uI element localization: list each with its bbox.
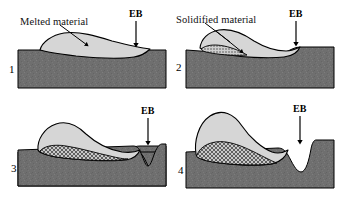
panel-3-number: 3	[11, 163, 17, 174]
panel-1-eb-label: EB	[129, 8, 142, 19]
panel-3-eb-label: EB	[141, 105, 154, 116]
panel-4-number: 4	[178, 165, 184, 176]
panel-3	[18, 118, 166, 186]
panel-2-eb-label: EB	[289, 8, 302, 19]
panel-4	[186, 112, 334, 188]
melted-material-label: Melted material	[20, 16, 88, 27]
panel-1	[18, 21, 166, 88]
panel-2	[186, 21, 334, 88]
figure-canvas	[0, 0, 340, 197]
panel-4-eb-label: EB	[293, 103, 306, 114]
figure-root: 1 2 3 4 Melted material Solidified mater…	[0, 0, 340, 197]
solidified-material-label: Solidified material	[176, 14, 256, 25]
panel-1-number: 1	[9, 64, 15, 75]
panel-2-number: 2	[176, 62, 182, 73]
